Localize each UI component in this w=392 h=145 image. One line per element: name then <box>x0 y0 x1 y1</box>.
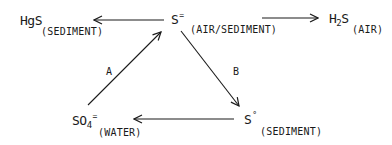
node-sulfide: S= <box>171 13 184 26</box>
node-elemental-sulfur: S° <box>244 113 257 126</box>
sulfur-cycle-diagram: HgS (SEDIMENT) S= (AIR/SEDIMENT) H2S (AI… <box>0 0 392 145</box>
node-h2s: H2S <box>329 12 349 25</box>
sulfate-subscript: 4 <box>87 120 92 130</box>
h2s-subscript: 2 <box>336 18 341 28</box>
edge-label-a: A <box>106 67 112 77</box>
sulfur-phase-label: (SEDIMENT) <box>260 127 322 137</box>
node-hgs: HgS <box>20 14 42 27</box>
sulfide-formula: S <box>171 12 178 27</box>
sulfur-formula: S <box>244 112 251 127</box>
sulfate-formula: SO <box>72 113 87 128</box>
arrow-sulfate-to-sulfide-a <box>88 32 161 105</box>
hgs-phase-label: (SEDIMENT) <box>41 27 103 37</box>
arrow-sulfide-to-sulfur-b <box>181 31 239 106</box>
h2s-phase-label: (AIR) <box>352 25 383 35</box>
sulfate-phase-label: (WATER) <box>98 128 142 138</box>
hgs-formula: HgS <box>20 13 42 28</box>
sulfur-degree-mark: ° <box>252 111 256 120</box>
edge-label-b: B <box>233 67 239 77</box>
sulfate-charge: = <box>93 112 97 121</box>
node-sulfate: SO4= <box>72 114 97 127</box>
sulfide-phase-label: (AIR/SEDIMENT) <box>190 25 277 35</box>
sulfide-charge: = <box>179 11 183 20</box>
h2s-formula-s: S <box>341 11 348 26</box>
